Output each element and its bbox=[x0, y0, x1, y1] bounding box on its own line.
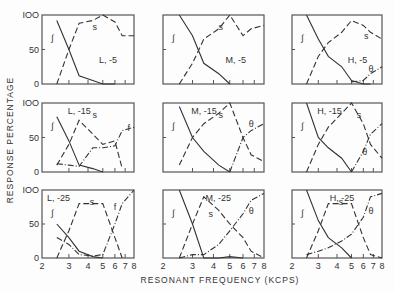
x-tick-label: 3 bbox=[190, 261, 195, 271]
series-label: ∫ bbox=[300, 208, 305, 218]
y-tick-label: IOO bbox=[22, 185, 39, 195]
x-tick-label: 4 bbox=[334, 261, 339, 271]
series-label: ∫ bbox=[50, 208, 55, 218]
series-label: ∫ bbox=[171, 121, 176, 131]
y-tick-label: 0 bbox=[34, 79, 39, 89]
panel-l-25: 050IOO2345678 bbox=[22, 185, 136, 271]
series-line bbox=[307, 21, 383, 85]
series-label: ∫ bbox=[300, 33, 305, 43]
series-line bbox=[57, 224, 103, 258]
series-label: θ bbox=[369, 206, 374, 216]
series-label: ∫ bbox=[50, 121, 55, 131]
x-tick-label: 6 bbox=[361, 261, 366, 271]
x-tick-label: 5 bbox=[100, 261, 105, 271]
series-line bbox=[179, 193, 264, 258]
panel-label: L, -5 bbox=[99, 55, 117, 65]
x-tick-label: 8 bbox=[379, 261, 384, 271]
series-label: s bbox=[93, 110, 98, 120]
series-label: s bbox=[219, 110, 224, 120]
panel-l-5: 050IOO bbox=[22, 10, 134, 89]
series-label: f bbox=[114, 202, 117, 212]
chart-canvas: 050IOOL, -5∫sM, -5∫sH, -5∫sθ050IOOL, -15… bbox=[0, 0, 395, 292]
series-label: s bbox=[339, 197, 344, 207]
panel-label: L, -25 bbox=[47, 193, 70, 203]
series-line bbox=[352, 67, 383, 82]
x-tick-label: 7 bbox=[371, 261, 376, 271]
x-tick-label: 5 bbox=[349, 261, 354, 271]
y-axis-title: RESPONSE PERCENTAGE bbox=[5, 77, 15, 204]
panel-label: M, -25 bbox=[205, 193, 231, 203]
panel-m-5 bbox=[163, 15, 264, 84]
series-label: s bbox=[364, 31, 369, 41]
series-line bbox=[307, 15, 371, 84]
y-tick-label: 0 bbox=[34, 253, 39, 263]
series-line bbox=[57, 117, 103, 172]
panel-label: H, -5 bbox=[348, 55, 368, 65]
series-label: s bbox=[208, 209, 213, 219]
y-tick-label: 50 bbox=[29, 219, 39, 229]
series-label: s bbox=[219, 22, 224, 32]
panel-label: M, -5 bbox=[226, 55, 247, 65]
chart-figure: 050IOOL, -5∫sM, -5∫sH, -5∫sθ050IOOL, -15… bbox=[0, 0, 395, 292]
panel-h-5 bbox=[292, 15, 382, 84]
series-label: θ bbox=[249, 206, 254, 216]
panel-label: L, -15 bbox=[68, 106, 91, 116]
series-label: s bbox=[90, 197, 95, 207]
series-line bbox=[57, 120, 122, 168]
panel-label: H, -15 bbox=[317, 106, 342, 116]
series-line bbox=[57, 127, 134, 166]
x-tick-label: 7 bbox=[252, 261, 257, 271]
x-tick-label: 3 bbox=[66, 261, 71, 271]
x-tick-label: 2 bbox=[160, 261, 165, 271]
series-line bbox=[57, 21, 115, 85]
series-label: ∫ bbox=[171, 208, 176, 218]
series-label: ∫ bbox=[300, 121, 305, 131]
y-tick-label: 50 bbox=[29, 133, 39, 143]
series-label: θ bbox=[369, 64, 374, 74]
x-tick-label: 4 bbox=[85, 261, 90, 271]
y-tick-label: 50 bbox=[29, 45, 39, 55]
series-label: f bbox=[128, 123, 131, 133]
series-line bbox=[230, 124, 264, 172]
x-tick-label: 8 bbox=[131, 261, 136, 271]
x-axis-title: RESONANT FREQUENCY (KCPS) bbox=[141, 275, 300, 285]
series-label: θ bbox=[362, 147, 367, 157]
x-tick-label: 5 bbox=[227, 261, 232, 271]
series-label: s bbox=[93, 22, 98, 32]
x-tick-label: 6 bbox=[241, 261, 246, 271]
y-tick-label: IOO bbox=[22, 98, 39, 108]
x-tick-label: 4 bbox=[211, 261, 216, 271]
series-label: θ bbox=[249, 119, 254, 129]
series-label: ∫ bbox=[50, 33, 55, 43]
x-tick-label: 8 bbox=[261, 261, 266, 271]
series-label: s bbox=[357, 110, 362, 120]
y-tick-label: IOO bbox=[22, 10, 39, 20]
panel-label: M, -15 bbox=[191, 106, 217, 116]
x-tick-label: 2 bbox=[39, 261, 44, 271]
x-tick-label: 6 bbox=[112, 261, 117, 271]
x-tick-label: 2 bbox=[289, 261, 294, 271]
x-tick-label: 7 bbox=[123, 261, 128, 271]
series-label: ∫ bbox=[171, 33, 176, 43]
x-tick-label: 3 bbox=[316, 261, 321, 271]
y-tick-label: 0 bbox=[34, 167, 39, 177]
